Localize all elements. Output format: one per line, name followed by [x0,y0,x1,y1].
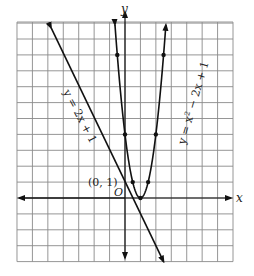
x-axis-label: x [236,191,243,205]
y-axis-label: y [120,2,128,16]
data-point [146,180,150,184]
data-point [161,53,165,57]
line-y-2x-plus-1 [51,28,163,262]
graph: x y O (0, 1) y = 2x + 1 y = x2 − 2x + 1 [0,0,254,276]
point-label: (0, 1) [88,176,118,189]
data-point [123,132,127,136]
data-point [115,53,119,57]
parabola-equation-label: y = x2 − 2x + 1 [175,60,211,147]
data-point [131,180,135,184]
data-point [154,132,158,136]
data-point [138,196,142,200]
